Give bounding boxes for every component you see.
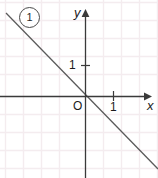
coordinate-plane-figure: 1 y x 1 1 O: [0, 0, 158, 178]
x-axis-label: x: [147, 99, 154, 112]
y-axis-label: y: [74, 6, 81, 19]
plotted-line: [6, 13, 158, 169]
figure-number-text: 1: [26, 12, 32, 23]
y-axis-tick-label-1: 1: [69, 59, 76, 71]
origin-label: O: [73, 100, 82, 112]
x-axis-tick-label-1: 1: [110, 101, 117, 113]
y-axis: [82, 9, 90, 178]
figure-number-badge: 1: [19, 7, 40, 28]
